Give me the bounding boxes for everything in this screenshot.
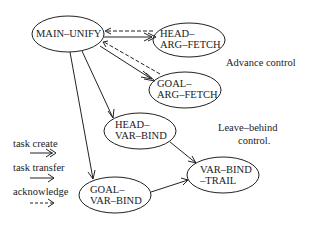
leave-behind-annotation-1: Leave–behind [218,122,277,133]
legend-task-transfer-label: task transfer [13,162,65,173]
edge-goal-arg-fetch-ack [104,42,160,74]
node-goal-arg-fetch-label-2: ARG–FETCH [157,89,218,100]
node-goal-arg-fetch-label-1: GOAL– [157,78,191,89]
edge-main-to-head-arg-fetch [104,33,156,41]
edge-goal-var-bind-to-trail [151,178,188,192]
edge-main-to-head-var-bind [82,51,114,118]
edge-main-to-goal-arg-fetch [100,46,155,81]
leave-behind-annotation-2: control. [238,135,270,146]
advance-control-annotation: Advance control [226,57,296,68]
legend-task-create-label: task create [13,138,58,149]
node-head-arg-fetch-label-1: HEAD– [160,28,194,39]
legend-acknowledge-arrow [30,199,54,207]
node-head-arg-fetch-label-2: ARG–FETCH [160,39,221,50]
node-goal-var-bind-label-1: GOAL– [90,184,124,195]
legend-task-create-arrow [30,149,56,157]
node-var-bind-trail-label-2: –TRAIL [200,175,236,186]
node-head-var-bind-label-2: VAR–BIND [115,130,167,141]
legend-acknowledge-label: acknowledge [13,186,68,197]
node-goal-var-bind-label-2: VAR–BIND [90,195,142,206]
node-head-var-bind-label-1: HEAD– [115,119,149,130]
legend-task-transfer-arrow [30,174,54,182]
node-var-bind-trail-label-1: VAR–BIND [200,164,252,175]
node-main-unify-label: MAIN–UNIFY [36,28,101,39]
edge-head-var-bind-to-trail [170,142,196,163]
